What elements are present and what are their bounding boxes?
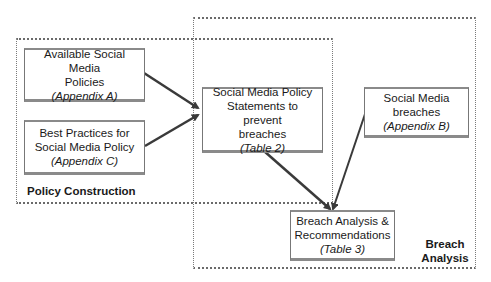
node-reference: (Appendix C)	[51, 154, 118, 168]
node-text-line: Statements to prevent	[207, 99, 318, 127]
node-text-line: Policies	[65, 75, 105, 89]
node-reference: (Appendix A)	[51, 89, 117, 103]
node-text-line: breaches	[393, 105, 440, 119]
arrow-statements-to-analysis	[264, 151, 330, 209]
node-text-line: Breach Analysis &	[296, 214, 389, 228]
arrow-breaches-to-analysis	[333, 114, 365, 209]
node-available-policies: Available Social Media Policies (Appendi…	[24, 48, 145, 102]
node-text-line: Recommendations	[295, 228, 391, 242]
arrow-available-to-statements	[144, 73, 198, 108]
node-best-practices: Best Practices for Social Media Policy (…	[24, 120, 145, 175]
node-reference: (Table 2)	[240, 141, 285, 155]
node-policy-statements: Social Media Policy Statements to preven…	[202, 87, 323, 153]
node-breach-analysis: Breach Analysis & Recommendations (Table…	[290, 210, 395, 261]
node-text-line: Available Social Media	[29, 47, 140, 75]
node-reference: (Table 3)	[320, 242, 365, 256]
node-text-line: Social Media Policy	[35, 140, 135, 154]
node-reference: (Appendix B)	[383, 119, 449, 133]
node-text-line: Social Media Policy	[213, 85, 313, 99]
node-text-line: Social Media	[384, 91, 450, 105]
node-text-line: breaches	[239, 127, 286, 141]
node-social-media-breaches: Social Media breaches (Appendix B)	[364, 87, 469, 138]
arrow-bestpractices-to-statements	[145, 115, 198, 146]
node-text-line: Best Practices for	[39, 126, 129, 140]
